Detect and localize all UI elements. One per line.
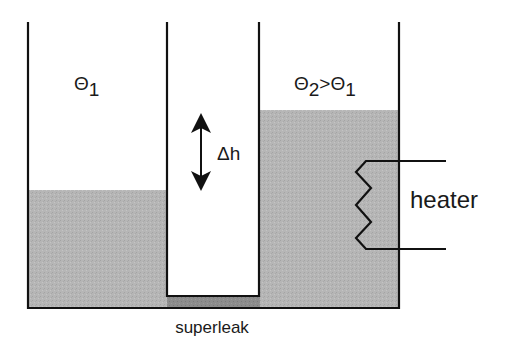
heater-label: heater [410, 186, 478, 213]
superleak-label: superleak [175, 318, 249, 337]
inner-channel-wall [167, 23, 259, 296]
right-vessel-label: Θ2>Θ1 [294, 73, 356, 100]
superleak-region [167, 297, 260, 307]
fountain-effect-diagram: Θ1 Θ2>Θ1 Δh heater superleak [0, 0, 519, 353]
left-vessel-label: Θ1 [74, 73, 99, 100]
height-difference-arrow-icon [191, 113, 211, 191]
left-liquid [29, 190, 167, 307]
right-liquid [260, 110, 399, 307]
height-difference-label: Δh [217, 143, 240, 164]
